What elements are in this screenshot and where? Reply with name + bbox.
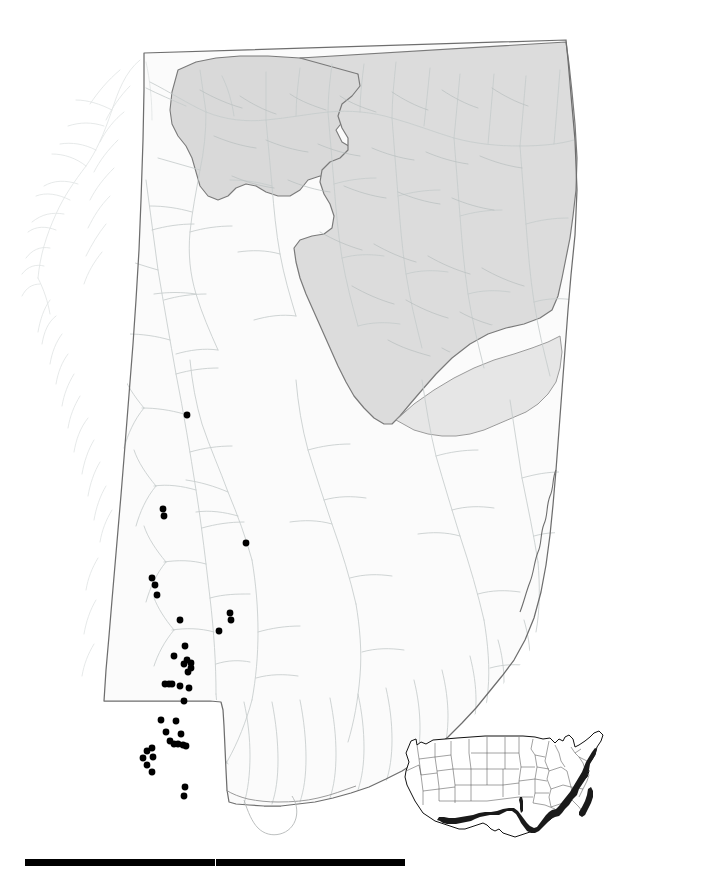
- occurrence-point: [184, 412, 191, 419]
- occurrence-point: [181, 661, 188, 668]
- occurrence-point: [182, 643, 189, 650]
- occurrence-point: [149, 769, 156, 776]
- occurrence-point: [181, 698, 188, 705]
- inset-map-container: [393, 727, 625, 844]
- occurrence-point: [150, 754, 157, 761]
- scale-bar-segment-right: [216, 859, 405, 866]
- occurrence-point: [152, 582, 159, 589]
- us-outline: [405, 731, 603, 837]
- occurrence-point: [171, 653, 178, 660]
- occurrence-point: [228, 617, 235, 624]
- occurrence-point: [149, 745, 156, 752]
- scale-bar-segment-left: [25, 859, 215, 866]
- occurrence-point: [163, 729, 170, 736]
- occurrence-point: [181, 793, 188, 800]
- occurrence-point: [177, 683, 184, 690]
- occurrence-point: [183, 743, 190, 750]
- united-states-inset-svg: [393, 727, 625, 844]
- occurrence-point: [178, 731, 185, 738]
- occurrence-point: [177, 617, 184, 624]
- scale-bar: [25, 859, 405, 866]
- occurrence-point: [216, 628, 223, 635]
- occurrence-point: [161, 513, 168, 520]
- occurrence-point: [160, 506, 167, 513]
- occurrence-point: [140, 755, 147, 762]
- occurrence-point: [186, 685, 193, 692]
- distribution-map-figure: Outline map of the State of Alabama with…: [0, 0, 705, 875]
- occurrence-point: [154, 592, 161, 599]
- occurrence-point: [243, 540, 250, 547]
- occurrence-point: [149, 575, 156, 582]
- occurrence-point: [227, 610, 234, 617]
- occurrence-point: [144, 762, 151, 769]
- occurrence-point: [173, 718, 180, 725]
- occurrence-point: [182, 784, 189, 791]
- occurrence-point: [185, 669, 192, 676]
- occurrence-point: [169, 681, 176, 688]
- occurrence-point: [158, 717, 165, 724]
